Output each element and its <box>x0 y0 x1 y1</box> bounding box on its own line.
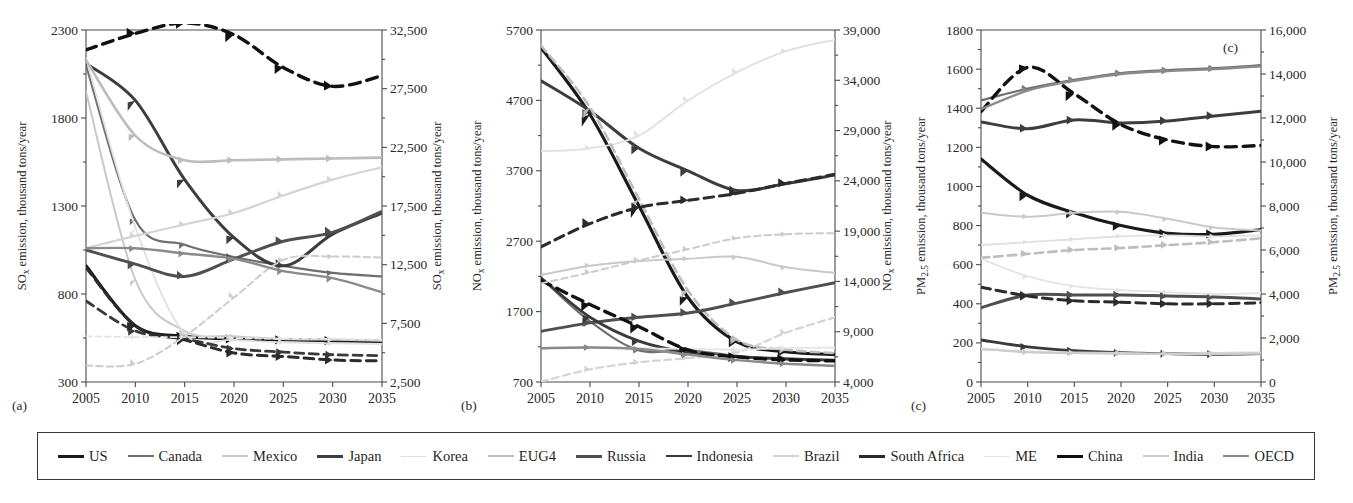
ytick-left-label: 2700 <box>506 234 533 249</box>
ytick-right-label: 24,000 <box>843 173 880 188</box>
series-marker <box>533 79 541 88</box>
series-marker <box>835 350 842 358</box>
legend-item-oecd[interactable]: OECD <box>1223 448 1293 465</box>
legend-label: EUG4 <box>519 448 556 465</box>
series-marker <box>835 36 840 41</box>
legend-label: Indonesia <box>697 448 753 465</box>
series-marker <box>532 277 541 287</box>
legend-item-india[interactable]: India <box>1143 448 1204 465</box>
series-marker <box>382 154 389 162</box>
legend-swatch <box>859 455 885 458</box>
ytick-right-label: 10,000 <box>1269 155 1306 170</box>
legend-item-brazil[interactable]: Brazil <box>773 448 839 465</box>
legend-item-china[interactable]: China <box>1057 448 1123 465</box>
series-marker <box>536 280 541 286</box>
series-marker <box>1023 214 1028 220</box>
ytick-right-label: 32,500 <box>390 23 427 38</box>
legend-item-me[interactable]: ME <box>984 448 1037 465</box>
series-marker <box>1261 298 1269 307</box>
ytick-right-label: 39,000 <box>843 23 880 38</box>
ytick-left-label: 2300 <box>51 23 78 38</box>
chart-panels: 3008001300180023002,5007,50012,50017,500… <box>0 0 1353 420</box>
series-marker <box>1113 222 1121 231</box>
ytick-right-label: 16,000 <box>1269 23 1306 38</box>
series-marker <box>327 270 333 276</box>
series-marker <box>1067 116 1075 125</box>
xtick-label: 2025 <box>1154 391 1182 406</box>
series-marker <box>781 231 786 237</box>
legend-swatch <box>58 455 84 458</box>
xtick-label: 2010 <box>121 391 149 406</box>
series-marker <box>1116 288 1121 293</box>
series-marker <box>1021 250 1028 258</box>
series-marker <box>382 337 387 342</box>
series-marker <box>78 247 86 256</box>
ytick-right-label: 8,000 <box>1269 199 1300 214</box>
legend-item-indonesia[interactable]: Indonesia <box>666 448 753 465</box>
series-marker <box>382 338 387 344</box>
panel-caption: (c) <box>911 398 926 413</box>
series-marker <box>326 155 333 163</box>
series-marker <box>382 255 387 261</box>
xtick-label: 2030 <box>772 391 800 406</box>
ytick-left-label: 5700 <box>506 23 533 38</box>
series-marker <box>1261 234 1268 242</box>
series-marker <box>1163 351 1168 357</box>
legend-label: China <box>1088 448 1123 465</box>
series-marker <box>128 100 136 111</box>
legend-label: Mexico <box>253 448 297 465</box>
ytick-right-label: 14,000 <box>1269 67 1306 82</box>
legend-label: South Africa <box>890 448 964 465</box>
series-marker <box>275 64 284 74</box>
ytick-left-label: 4700 <box>506 93 533 108</box>
series-marker <box>633 359 639 365</box>
legend-item-canada[interactable]: Canada <box>128 448 202 465</box>
legend-swatch <box>128 455 154 457</box>
series-marker <box>78 266 86 275</box>
xtick-label: 2025 <box>723 391 751 406</box>
series-marker <box>1209 225 1214 231</box>
ytick-left-label: 700 <box>513 375 534 390</box>
legend-item-russia[interactable]: Russia <box>576 448 646 465</box>
legend-swatch <box>984 456 1010 457</box>
series-marker <box>683 256 688 262</box>
ytick-right-label: 0 <box>1269 375 1276 390</box>
series-marker <box>1208 238 1215 246</box>
legend-item-mexico[interactable]: Mexico <box>222 448 297 465</box>
ytick-right-label: 12,500 <box>390 257 427 272</box>
series-marker <box>680 195 688 204</box>
y-axis-title-left: SOx emission, thousand tons/year <box>15 121 31 290</box>
panel-caption: (a) <box>12 398 27 413</box>
xtick-label: 2030 <box>1200 391 1228 406</box>
ytick-right-label: 14,000 <box>843 274 880 289</box>
series-marker <box>227 156 234 164</box>
series-marker <box>585 263 590 269</box>
xtick-label: 2035 <box>368 391 396 406</box>
legend-swatch <box>222 455 248 457</box>
series-line-eug4 <box>86 60 382 162</box>
series-legend: USCanadaMexicoJapanKoreaEUG4RussiaIndone… <box>37 432 1315 480</box>
series-marker <box>1070 236 1075 241</box>
series-marker <box>1160 116 1168 125</box>
series-marker <box>534 277 541 285</box>
xtick-label: 2020 <box>220 391 248 406</box>
xtick-label: 2010 <box>1014 391 1042 406</box>
series-marker <box>382 337 390 346</box>
series-marker <box>1261 62 1267 69</box>
xtick-label: 2035 <box>821 391 849 406</box>
series-marker <box>1261 295 1269 304</box>
legend-item-korea[interactable]: Korea <box>401 448 467 465</box>
series-marker <box>973 118 981 127</box>
legend-label: Japan <box>348 448 381 465</box>
series-marker <box>835 270 840 276</box>
series-marker <box>778 178 786 187</box>
y-axis-title-right: NOx emission, thousand tons/year <box>880 120 896 292</box>
legend-item-south-africa[interactable]: South Africa <box>859 448 964 465</box>
series-marker <box>732 235 737 241</box>
legend-item-japan[interactable]: Japan <box>317 448 381 465</box>
legend-item-us[interactable]: US <box>58 448 108 465</box>
ytick-right-label: 6,000 <box>1269 243 1300 258</box>
series-marker <box>835 169 843 178</box>
series-marker <box>975 346 981 352</box>
legend-item-eug4[interactable]: EUG4 <box>488 448 556 465</box>
